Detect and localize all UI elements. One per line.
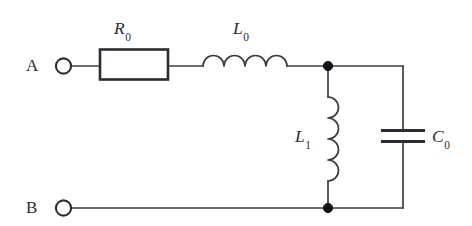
resistor-r0-label-subscript: 0 [125, 31, 131, 43]
inductor-l1-label-subscript: 1 [305, 139, 311, 151]
inductor-l0-label-subscript: 0 [243, 31, 249, 43]
terminal-a-ring [56, 58, 71, 73]
capacitor-c0-label-main: C [432, 126, 444, 146]
inductor-l1-label-main: L [295, 126, 305, 146]
inductor-l1-label: L1 [295, 128, 310, 149]
node-dot-top-junction [323, 61, 332, 70]
inductor-l0-label-main: L [233, 18, 243, 38]
resistor-r0-body [100, 50, 168, 80]
terminal-b-ring [56, 200, 71, 215]
capacitor-c0-label-subscript: 0 [444, 139, 450, 151]
circuit-diagram-figure: A B R0 L0 L1 C0 [0, 0, 472, 226]
resistor-r0-label: R0 [114, 20, 130, 41]
resistor-r0-label-main: R [114, 18, 125, 38]
inductor-l1-coil [328, 97, 339, 181]
terminal-a-label: A [26, 57, 38, 74]
inductor-l0-label: L0 [233, 20, 248, 41]
inductor-l0-coil [203, 56, 287, 66]
terminal-b-label: B [26, 199, 37, 216]
capacitor-c0-label: C0 [432, 128, 449, 149]
node-dot-bottom-junction [323, 203, 332, 212]
